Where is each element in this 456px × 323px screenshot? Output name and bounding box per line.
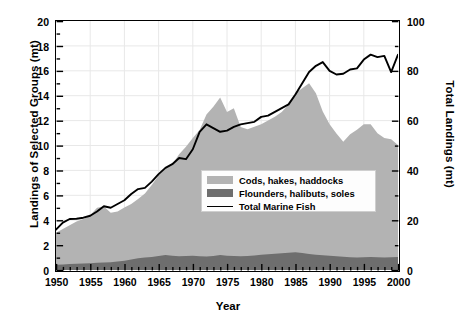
y-axis-left-tick-label: 16: [19, 66, 49, 76]
y-axis-right-tick-label: 0: [407, 266, 441, 276]
plot-svg: [56, 21, 398, 270]
chart-figure: Landings of Selected Groups (mt) Total L…: [0, 0, 456, 323]
legend-item-total: Total Marine Fish: [207, 200, 371, 212]
legend-item-cods: Cods, hakes, haddocks: [207, 174, 371, 186]
legend-line-total: [207, 206, 233, 207]
y-axis-right-tick-label: 100: [407, 17, 441, 27]
legend-label-cods: Cods, hakes, haddocks: [239, 175, 343, 186]
plot-area: [55, 20, 400, 272]
legend-item-flounders: Flounders, halibuts, soles: [207, 187, 371, 199]
legend-label-total: Total Marine Fish: [239, 201, 315, 212]
x-axis-tick-label: 2000: [379, 277, 419, 287]
y-axis-right-tick-label: 40: [407, 166, 441, 176]
legend-label-flounders: Flounders, halibuts, soles: [239, 188, 355, 199]
y-axis-right-title: Total Landings (mt): [444, 14, 456, 254]
y-axis-left-tick-label: 12: [19, 116, 49, 126]
y-axis-left-tick-label: 14: [19, 91, 49, 101]
y-axis-left-tick-label: 10: [19, 141, 49, 151]
chart-legend: Cods, hakes, haddocks Flounders, halibut…: [201, 170, 376, 212]
y-axis-left-tick-label: 6: [19, 191, 49, 201]
legend-swatch-flounders: [207, 189, 233, 197]
y-axis-left-tick-label: 4: [19, 216, 49, 226]
y-axis-left-tick-label: 18: [19, 42, 49, 52]
y-axis-right-tick-label: 20: [407, 216, 441, 226]
y-axis-right-tick-label: 60: [407, 116, 441, 126]
y-axis-left-tick-label: 2: [19, 241, 49, 251]
y-axis-left-tick-label: 0: [19, 266, 49, 276]
x-axis-title: Year: [55, 300, 401, 312]
y-axis-right-tick-label: 80: [407, 66, 441, 76]
y-axis-left-tick-label: 8: [19, 166, 49, 176]
y-axis-left-tick-label: 20: [19, 17, 49, 27]
legend-swatch-cods: [207, 176, 233, 184]
